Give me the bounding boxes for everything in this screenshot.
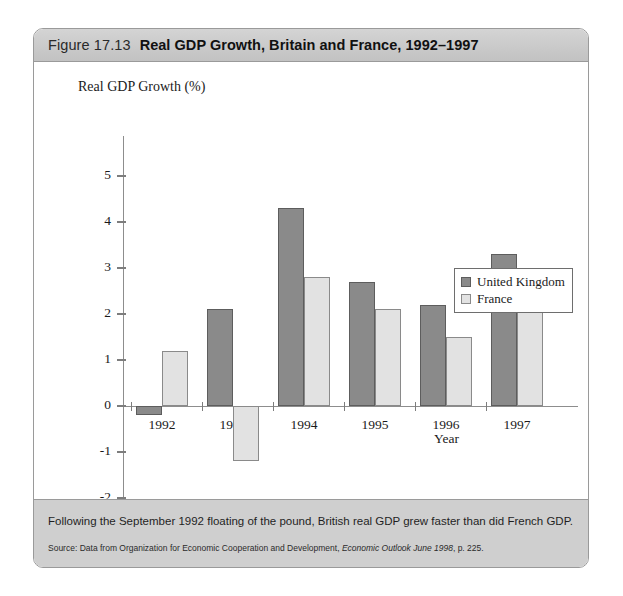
x-tick-label-1995: 1995 [345, 417, 405, 433]
bar-united-kingdom-1994 [278, 208, 304, 406]
source-suffix: , p. 225. [453, 543, 484, 553]
y-tick-2 [117, 313, 126, 314]
legend-item-france: France [461, 290, 565, 307]
bar-united-kingdom-1992 [136, 406, 162, 415]
x-tick-label-1997: 1997 [487, 417, 547, 433]
bar-france-1993 [233, 406, 259, 461]
figure-header: Figure 17.13 Real GDP Growth, Britain an… [34, 29, 588, 62]
legend-swatch-united-kingdom [461, 277, 471, 287]
y-tick-4 [117, 221, 126, 222]
x-tick-1995 [344, 402, 345, 411]
x-tick-label-1996: 1996 [416, 417, 476, 433]
x-tick-1993 [202, 402, 203, 411]
figure-caption: Following the September 1992 floating of… [48, 514, 574, 529]
figure-title: Real GDP Growth, Britain and France, 199… [140, 37, 479, 53]
y-tick--1 [117, 451, 126, 452]
bar-united-kingdom-1993 [207, 309, 233, 406]
x-axis-label: Year [434, 431, 459, 447]
legend-label-united-kingdom: United Kingdom [477, 274, 565, 290]
bar-france-1996 [446, 337, 472, 406]
legend-label-france: France [477, 291, 512, 307]
bar-united-kingdom-1995 [349, 282, 375, 406]
source-prefix: Source: Data from Organization for Econo… [48, 543, 342, 553]
chart-plot-area: Real GDP Growth (%) Year 543210-1-2 1992… [34, 62, 588, 499]
y-tick-label-0: 0 [85, 397, 111, 413]
x-axis-line [123, 406, 578, 407]
legend-item-united-kingdom: United Kingdom [461, 273, 565, 290]
y-tick-label-4: 4 [85, 213, 111, 229]
figure-frame: Figure 17.13 Real GDP Growth, Britain an… [33, 28, 589, 568]
y-axis-line [123, 136, 124, 504]
x-tick-label-1994: 1994 [274, 417, 334, 433]
chart-legend: United Kingdom France [454, 268, 573, 313]
x-tick-label-1992: 1992 [132, 417, 192, 433]
y-tick-label-3: 3 [85, 259, 111, 275]
figure-number: Figure 17.13 [48, 37, 131, 53]
source-publication: Economic Outlook June 1998 [342, 543, 453, 553]
figure-source: Source: Data from Organization for Econo… [48, 543, 574, 554]
bar-france-1995 [375, 309, 401, 406]
x-tick-1997 [486, 402, 487, 411]
y-tick-label-2: 2 [85, 305, 111, 321]
x-tick-1992 [131, 402, 132, 411]
bar-united-kingdom-1996 [420, 305, 446, 406]
y-tick-0 [117, 405, 126, 406]
y-tick-label-5: 5 [85, 167, 111, 183]
figure-footer: Following the September 1992 floating of… [34, 499, 588, 568]
y-tick-label--1: -1 [85, 443, 111, 459]
y-tick-5 [117, 175, 126, 176]
y-tick-3 [117, 267, 126, 268]
y-tick-1 [117, 359, 126, 360]
legend-swatch-france [461, 294, 471, 304]
bar-france-1992 [162, 351, 188, 406]
x-tick-1996 [415, 402, 416, 411]
y-axis-label: Real GDP Growth (%) [78, 79, 205, 95]
bar-france-1994 [304, 277, 330, 406]
y-tick-label-1: 1 [85, 351, 111, 367]
x-tick-1994 [273, 402, 274, 411]
